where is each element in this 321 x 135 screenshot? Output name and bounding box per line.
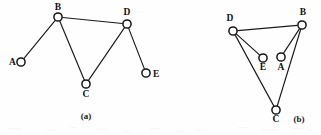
panel-caption-b: (b) (294, 114, 305, 124)
scan-speckle (46, 130, 56, 131)
graph-node-label-D: D (227, 13, 234, 23)
scan-speckle (238, 127, 248, 128)
graph-edge-C-D (89, 28, 125, 80)
graph-node-label-A: A (278, 62, 285, 72)
scan-speckle (124, 131, 131, 132)
graph-figure-svg: ABCDE(a)DBEAC(b) (0, 0, 321, 135)
graph-node-D[interactable] (229, 27, 237, 35)
graph-edge-D-B (238, 25, 298, 30)
graph-panels-layer: ABCDE(a)DBEAC(b) (9, 2, 307, 124)
graph-node-C[interactable] (82, 80, 90, 88)
graph-panel-a: ABCDE(a) (9, 2, 159, 121)
graph-edge-D-C (235, 35, 274, 106)
node-group: DBEAC (227, 7, 307, 124)
graph-node-B[interactable] (54, 13, 62, 21)
graph-node-E[interactable] (142, 69, 150, 77)
scan-speckle (306, 130, 314, 131)
graph-node-label-E: E (153, 69, 159, 79)
graph-node-label-E: E (260, 62, 266, 72)
graph-edge-D-E (129, 28, 145, 68)
graph-node-label-B: B (300, 7, 307, 17)
graph-node-A[interactable] (277, 53, 285, 61)
graph-node-A[interactable] (17, 58, 25, 66)
scan-speckle (8, 128, 22, 129)
scan-speckle (262, 129, 278, 130)
panel-caption-a: (a) (81, 111, 92, 121)
figure-container: ABCDE(a)DBEAC(b) (0, 0, 321, 135)
scan-speckle (196, 130, 207, 131)
scan-speckle (96, 129, 108, 130)
graph-panel-b: DBEAC(b) (227, 7, 307, 124)
graph-node-label-A: A (9, 57, 16, 67)
graph-edge-B-D (63, 17, 123, 23)
scan-speckle (292, 128, 305, 129)
scan-speckle (150, 128, 159, 129)
graph-node-label-C: C (273, 114, 280, 124)
graph-node-label-D: D (124, 7, 131, 17)
graph-node-label-C: C (83, 89, 90, 99)
graph-node-E[interactable] (259, 54, 267, 62)
graph-edge-B-C (60, 21, 84, 79)
scan-noise-layer (8, 127, 314, 132)
graph-node-C[interactable] (272, 106, 280, 114)
scan-speckle (176, 131, 184, 132)
scan-speckle (70, 127, 76, 128)
edge-group (235, 25, 300, 105)
graph-edge-A-B (24, 21, 55, 59)
graph-node-B[interactable] (298, 21, 306, 29)
graph-node-label-B: B (55, 2, 62, 12)
graph-node-D[interactable] (123, 20, 131, 28)
